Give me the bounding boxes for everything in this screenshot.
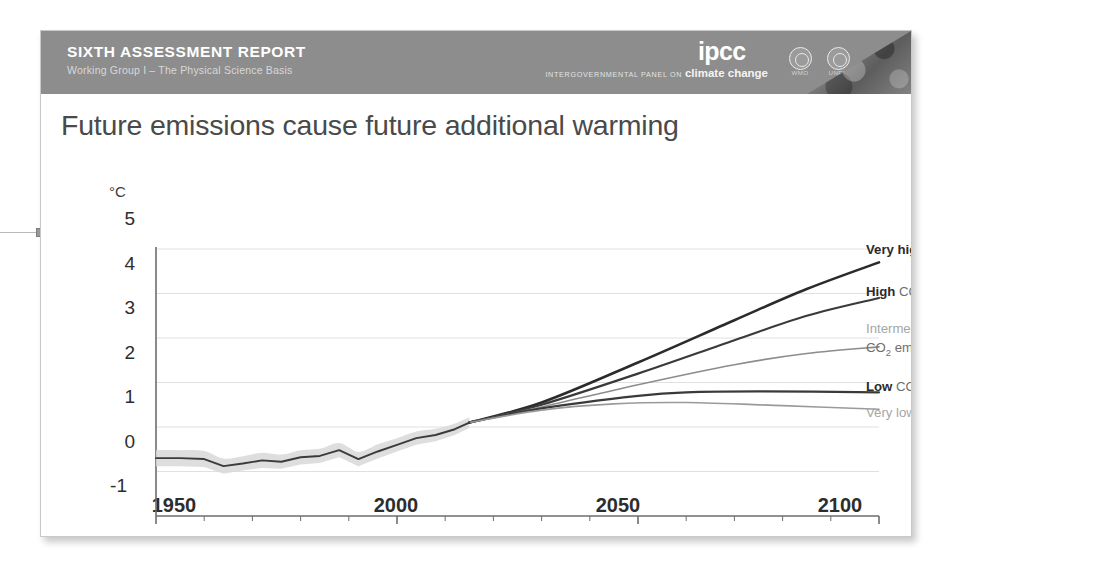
chart-gridlines (156, 249, 879, 472)
legend-intermediate-line1[interactable]: Intermediate (866, 321, 912, 336)
legend-intermediate-line2[interactable]: CO2 emissions (866, 340, 912, 358)
presentation-slide: SIXTH ASSESSMENT REPORT Working Group I … (40, 30, 912, 537)
legend-very-high-bold: Very high (866, 242, 912, 257)
legend-intermediate-rest: emissions (895, 340, 912, 355)
legend-very-low[interactable]: Very low CO2 emissions (866, 405, 912, 423)
observed-uncertainty-band (156, 417, 469, 474)
chart-plot-area (41, 31, 911, 536)
chart-x-minor-ticks (156, 516, 879, 524)
legend-very-low-bold: Very low (866, 405, 912, 420)
legend-low-bold: Low (866, 379, 892, 394)
legend-very-high[interactable]: Very high CO2 emissions (866, 242, 912, 260)
chart-axis-lines (156, 247, 879, 516)
legend-high-bold: High (866, 284, 895, 299)
legend-low[interactable]: Low CO2 emissions (866, 379, 912, 397)
warming-projection-chart: °C 5 4 3 2 1 0 -1 1950 2000 2050 2100 (41, 31, 911, 536)
legend-high[interactable]: High CO2 emissions (866, 284, 912, 302)
chart-series-lines (469, 262, 879, 422)
page-root: SIXTH ASSESSMENT REPORT Working Group I … (0, 0, 1117, 563)
legend-intermediate-bold: Intermediate (866, 321, 912, 336)
